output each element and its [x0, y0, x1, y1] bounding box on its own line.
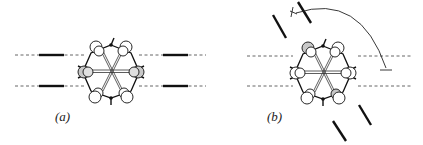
rotation-arrow [290, 7, 392, 70]
figure: (a) [0, 0, 423, 145]
molecule-b [290, 39, 356, 106]
panel-label-a: (a) [55, 109, 70, 124]
tilted-bars [273, 2, 371, 141]
panel-a: (a) [15, 38, 206, 124]
molecule-a [78, 38, 144, 105]
panel-label-b: (b) [267, 109, 282, 124]
panel-b: (b) [247, 2, 412, 141]
